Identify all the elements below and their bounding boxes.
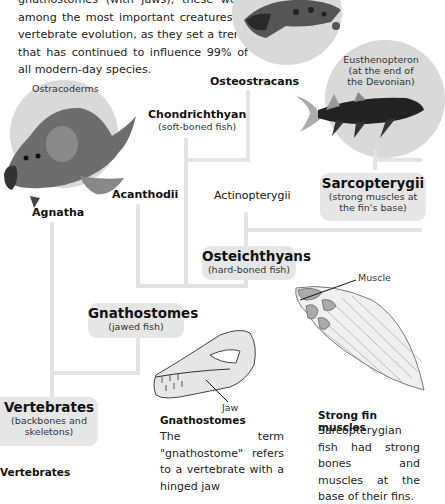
tree-line xyxy=(244,228,422,232)
gnathostomes-title: Gnathostomes xyxy=(88,305,184,321)
muscle-label: Muscle xyxy=(358,272,391,283)
vertebrates-subtitle-1: (backbones and xyxy=(0,415,98,426)
ostracoderms-label: Ostracoderms xyxy=(32,83,92,94)
sarcopterygii-box: Sarcopterygii (strong muscles at the fin… xyxy=(320,173,426,221)
tree-line xyxy=(50,371,140,375)
eusthenopteron-illustration xyxy=(296,88,426,143)
vertebrates-subtitle-2: skeletons) xyxy=(0,426,98,437)
sarcopterygii-subtitle-1: (strong muscles at xyxy=(320,191,426,202)
acanthodii-label: Acanthodii xyxy=(112,188,178,201)
agnatha-label: Agnatha xyxy=(32,206,84,219)
chondrichthyan-subtitle: (soft-boned fish) xyxy=(148,121,246,132)
actinopterygii-label: Actinopterygii xyxy=(214,189,291,202)
tree-line xyxy=(136,284,248,288)
vertebrates-caption-title: Vertebrates xyxy=(0,466,70,478)
osteichthyans-subtitle: (hard-boned fish) xyxy=(202,264,296,275)
chondrichthyan-title: Chondrichthyan xyxy=(148,108,246,121)
tree-line xyxy=(184,158,250,162)
fin-caption-text: Sarcopterygian fish had strong bones and… xyxy=(318,423,420,504)
ostracoderm-illustration xyxy=(0,96,140,196)
jaw-pointer-line xyxy=(206,380,232,404)
tree-line xyxy=(373,158,422,162)
gnathostomes-caption-title: Gnathostomes xyxy=(160,414,246,426)
osteostracans-label: Osteostracans xyxy=(210,75,299,88)
osteichthyans-title: Osteichthyans xyxy=(202,248,296,264)
chondrichthyan-label: Chondrichthyan (soft-boned fish) xyxy=(148,108,246,132)
gnathostomes-caption-text: The term "gnathostome" refers to a verte… xyxy=(160,429,284,495)
eusthenopteron-label: Eusthenopteron (at the end of the Devoni… xyxy=(340,54,422,87)
sarcopterygii-subtitle-2: the fin's base) xyxy=(320,202,426,213)
muscle-pointer-line xyxy=(300,278,360,302)
osteichthyans-box: Osteichthyans (hard-boned fish) xyxy=(202,246,296,280)
tree-line xyxy=(136,204,140,288)
gnathostomes-subtitle: (jawed fish) xyxy=(88,321,184,332)
jaw-label: Jaw xyxy=(222,402,238,413)
tree-line xyxy=(246,90,250,162)
vertebrates-title: Vertebrates xyxy=(0,399,98,415)
sarcopterygii-title: Sarcopterygii xyxy=(320,175,426,191)
vertebrates-box: Vertebrates (backbones and skeletons) xyxy=(0,397,98,446)
intro-paragraph: gnathostomes (with jaws); these were amo… xyxy=(18,0,248,79)
dunkleosteus-illustration xyxy=(236,0,346,50)
gnathostomes-box: Gnathostomes (jawed fish) xyxy=(88,303,184,338)
